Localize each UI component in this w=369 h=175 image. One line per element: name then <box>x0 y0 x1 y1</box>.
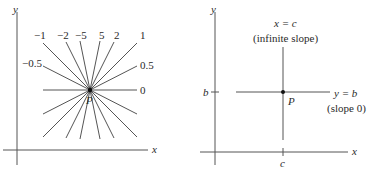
left-y-axis-label: y <box>12 3 18 15</box>
left-panel: y x P −1 −2 −5 5 2 1 −0.5 0.5 0 <box>3 3 157 165</box>
left-point-label: P <box>85 94 93 106</box>
slope-label: −0.5 <box>22 57 42 69</box>
horizontal-line-label: y = b <box>333 87 358 99</box>
right-x-axis-label: x <box>351 145 357 157</box>
left-x-axis-label: x <box>151 143 157 155</box>
slope-label: −2 <box>57 29 69 41</box>
slope-label: −1 <box>34 29 46 41</box>
slope-label: −5 <box>75 29 87 41</box>
slope-diagram: y x P −1 −2 −5 5 2 1 −0.5 0.5 0 <box>0 0 369 175</box>
right-y-axis-label: y <box>210 3 216 15</box>
right-point-label: P <box>287 95 295 107</box>
slope-label: 2 <box>114 29 120 41</box>
slope-label: 0 <box>140 84 146 96</box>
vertical-line-label: x = c <box>273 17 297 29</box>
point-p <box>281 90 285 94</box>
tick-b-label: b <box>203 86 209 98</box>
right-panel: y x b c P x = c (infinite slope) y = b (… <box>200 3 366 169</box>
slope-label: 1 <box>140 29 146 41</box>
vertical-line-note: (infinite slope) <box>253 32 318 45</box>
horizontal-line-note: (slope 0) <box>327 102 366 115</box>
slope-label: 5 <box>99 29 105 41</box>
slope-label: 0.5 <box>140 59 154 71</box>
tick-c-label: c <box>280 157 285 169</box>
point-p <box>88 88 92 92</box>
